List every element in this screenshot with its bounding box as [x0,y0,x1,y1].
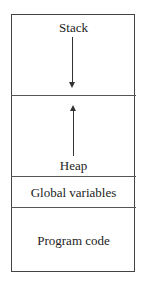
globals-code-divider [11,207,136,208]
heap-label: Heap [11,159,136,173]
heap-arrow-line [73,110,74,156]
arrow-down-icon [69,82,75,88]
stack-heap-divider [11,95,136,96]
program-code-label: Program code [11,234,136,248]
global-variables-label: Global variables [11,186,136,200]
stack-label: Stack [11,21,136,35]
heap-globals-divider [11,176,136,177]
stack-arrow-line [72,37,73,84]
